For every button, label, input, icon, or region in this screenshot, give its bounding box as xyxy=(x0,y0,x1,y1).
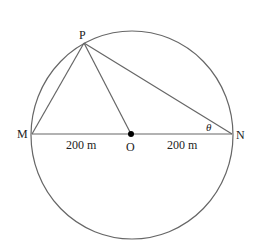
label-MO-length: 200 m xyxy=(66,139,96,151)
label-O: O xyxy=(126,141,135,153)
label-ON-length: 200 m xyxy=(167,139,197,151)
label-M: M xyxy=(17,128,28,140)
segment-PM xyxy=(32,43,84,134)
center-dot-O xyxy=(128,131,134,137)
label-angle-theta: θ xyxy=(206,122,211,133)
label-N: N xyxy=(236,129,245,141)
segment-PO xyxy=(84,43,131,134)
circle-diagram xyxy=(0,0,255,251)
label-P: P xyxy=(79,29,86,41)
